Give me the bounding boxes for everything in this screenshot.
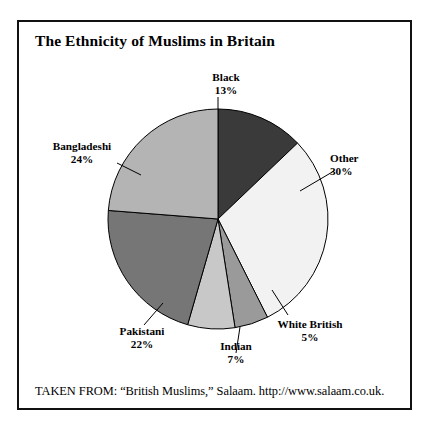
- pie-label-bangladeshi-value: 24%: [36, 153, 128, 166]
- pie-label-white-british: White British 5%: [262, 318, 358, 344]
- pie-label-black: Black 13%: [190, 71, 262, 97]
- pie-label-other-name: Other: [330, 152, 359, 164]
- pie-label-black-name: Black: [212, 71, 239, 83]
- figure-source-caption: TAKEN FROM: “British Muslims,” Salaam. h…: [35, 384, 384, 399]
- pie-label-indian-name: Indian: [220, 340, 252, 352]
- pie-slice-group: [108, 109, 328, 329]
- pie-label-pakistani: Pakistani 22%: [104, 325, 180, 351]
- pie-label-other-value: 30%: [330, 165, 392, 178]
- pie-label-other: Other 30%: [330, 152, 392, 178]
- pie-label-black-value: 13%: [190, 84, 262, 97]
- pie-label-bangladeshi: Bangladeshi 24%: [36, 140, 128, 166]
- pie-label-pakistani-value: 22%: [104, 338, 180, 351]
- pie-label-white-british-value: 5%: [262, 331, 358, 344]
- pie-label-indian-value: 7%: [205, 353, 267, 366]
- pie-label-bangladeshi-name: Bangladeshi: [53, 140, 111, 152]
- pie-label-pakistani-name: Pakistani: [120, 325, 165, 337]
- pie-label-indian: Indian 7%: [205, 340, 267, 366]
- pie-label-white-british-name: White British: [278, 318, 343, 330]
- page-title: The Ethnicity of Muslims in Britain: [35, 32, 275, 50]
